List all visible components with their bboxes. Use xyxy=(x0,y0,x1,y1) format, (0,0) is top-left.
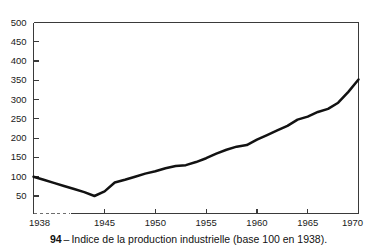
x-axis-tick-label: 1960 xyxy=(246,217,267,228)
y-axis-tick-label: 500 xyxy=(11,17,27,28)
x-axis-tick-label: 1955 xyxy=(196,217,217,228)
caption-number: 94 xyxy=(50,233,62,245)
y-axis-tick-label: 350 xyxy=(11,74,27,85)
y-axis-tick-label: 300 xyxy=(11,94,27,105)
x-axis-ticks xyxy=(34,209,359,214)
y-axis-tick-labels: 50100150200250300350400450500 xyxy=(11,17,27,202)
y-axis-ticks xyxy=(34,23,39,197)
production-index-series-line xyxy=(34,80,359,196)
y-axis-tick-label: 400 xyxy=(11,55,27,66)
x-axis-tick-label: 1965 xyxy=(297,217,318,228)
y-axis-tick-label: 200 xyxy=(11,132,27,143)
x-axis-tick-label: 1950 xyxy=(145,217,166,228)
y-axis-tick-label: 450 xyxy=(11,36,27,47)
y-axis-tick-label: 250 xyxy=(11,113,27,124)
figure-caption: 94–Indice de la production industrielle … xyxy=(0,233,377,245)
x-axis-tick-labels: 1938194519501955196019651970 xyxy=(29,217,363,228)
y-axis-tick-label: 50 xyxy=(16,190,27,201)
chart-figure: 50100150200250300350400450500 1938194519… xyxy=(0,0,377,250)
plot-frame xyxy=(34,23,359,214)
caption-text: Indice de la production industrielle (ba… xyxy=(71,233,327,245)
y-axis-tick-label: 150 xyxy=(11,151,27,162)
x-axis-tick-label: 1938 xyxy=(29,217,50,228)
x-axis-tick-label: 1970 xyxy=(342,217,363,228)
y-axis-tick-label: 100 xyxy=(11,171,27,182)
caption-dash: – xyxy=(62,233,72,245)
x-axis-tick-label: 1945 xyxy=(94,217,115,228)
production-index-line-chart: 50100150200250300350400450500 1938194519… xyxy=(0,0,377,250)
